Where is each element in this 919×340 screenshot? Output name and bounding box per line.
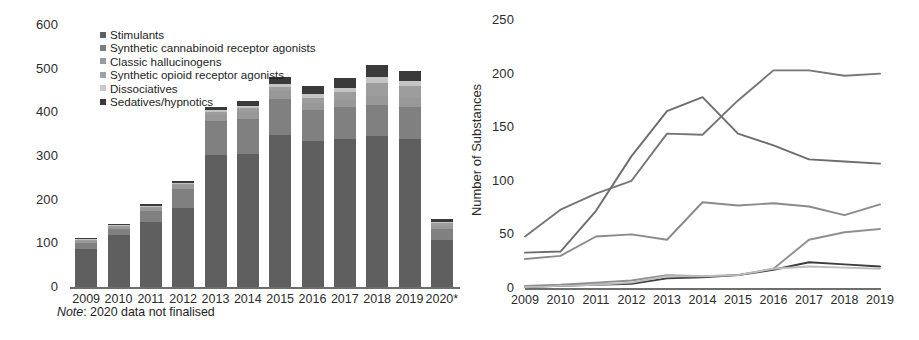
bar-segment — [75, 249, 97, 287]
bar-column[interactable] — [302, 86, 324, 287]
line-plot-area — [525, 20, 880, 288]
bar-segment — [366, 105, 388, 136]
bar-segment — [237, 119, 259, 154]
bar-column[interactable] — [108, 224, 130, 287]
bar-segment — [172, 208, 194, 287]
bar-column[interactable] — [399, 71, 421, 287]
bar-segment — [399, 139, 421, 287]
bar-segment — [334, 139, 356, 287]
bar-segment — [399, 71, 421, 81]
legend-label: Stimulants — [110, 28, 164, 41]
legend-label: Classic hallucinogens — [110, 55, 222, 68]
bar-x-tick: 2020* — [420, 292, 464, 306]
legend-item[interactable]: Synthetic opioid receptor agonists — [100, 68, 316, 81]
stacked-bar-chart: 6005004003002001000 20092010201120122013… — [0, 0, 470, 340]
bar-segment — [237, 154, 259, 287]
bar-segment — [108, 235, 130, 287]
legend-swatch-icon — [100, 72, 106, 78]
legend-swatch-icon — [100, 58, 106, 64]
line-y-axis-title: Number of Substances — [469, 84, 484, 216]
bar-segment — [399, 98, 421, 106]
bar-segment — [366, 96, 388, 105]
bar-segment — [237, 112, 259, 119]
bar-column[interactable] — [205, 107, 227, 287]
bar-segment — [366, 65, 388, 78]
legend-label: Synthetic cannabinoid receptor agonists — [110, 41, 316, 54]
bar-y-tick: 0 — [20, 279, 58, 294]
line-series — [525, 97, 880, 252]
bar-y-tick: 100 — [20, 235, 58, 250]
legend-swatch-icon — [100, 45, 106, 51]
bar-y-tick: 500 — [20, 61, 58, 76]
bar-segment — [366, 83, 388, 96]
bar-segment — [431, 240, 453, 287]
bar-segment — [334, 100, 356, 107]
bar-segment — [140, 222, 162, 288]
bar-y-tick: 600 — [20, 17, 58, 32]
bar-x-axis-line — [70, 287, 460, 289]
bar-segment — [334, 92, 356, 100]
bar-segment — [334, 78, 356, 88]
bar-segment — [431, 229, 453, 240]
line-series-svg — [525, 20, 880, 288]
line-y-tick: 50 — [478, 226, 514, 241]
line-chart: 250200150100500 Number of Substances 200… — [470, 0, 919, 340]
bar-segment — [269, 135, 291, 287]
bar-segment — [366, 136, 388, 287]
note-prefix: Note — [57, 305, 83, 319]
legend-item[interactable]: Synthetic cannabinoid receptor agonists — [100, 41, 316, 54]
bar-column[interactable] — [366, 65, 388, 287]
bar-y-tick: 300 — [20, 148, 58, 163]
bar-segment — [205, 121, 227, 155]
bar-segment — [205, 155, 227, 287]
bar-y-tick: 400 — [20, 104, 58, 119]
bar-column[interactable] — [172, 181, 194, 287]
legend-label: Sedatives/hypnotics — [110, 95, 213, 108]
note-text: : 2020 data not finalised — [83, 305, 215, 319]
bar-legend: StimulantsSynthetic cannabinoid receptor… — [100, 28, 316, 108]
bar-segment — [302, 141, 324, 287]
line-y-tick: 250 — [478, 12, 514, 27]
bar-segment — [334, 107, 356, 138]
legend-item[interactable]: Dissociatives — [100, 82, 316, 95]
bar-segment — [302, 110, 324, 141]
bar-segment — [399, 86, 421, 98]
two-panel-figure: 6005004003002001000 20092010201120122013… — [0, 0, 919, 340]
bar-column[interactable] — [431, 219, 453, 287]
legend-swatch-icon — [100, 99, 106, 105]
bar-column[interactable] — [334, 78, 356, 287]
bar-segment — [172, 189, 194, 209]
bar-segment — [399, 107, 421, 140]
bar-column[interactable] — [140, 204, 162, 287]
legend-label: Synthetic opioid receptor agonists — [110, 68, 284, 81]
legend-label: Dissociatives — [110, 82, 178, 95]
bar-column[interactable] — [75, 238, 97, 287]
line-x-axis-line — [525, 288, 881, 290]
bar-segment — [140, 211, 162, 221]
legend-item[interactable]: Classic hallucinogens — [100, 55, 316, 68]
bar-column[interactable] — [237, 101, 259, 287]
legend-swatch-icon — [100, 85, 106, 91]
chart-note: Note: 2020 data not finalised — [57, 305, 215, 319]
legend-item[interactable]: Sedatives/hypnotics — [100, 95, 316, 108]
bar-y-tick: 200 — [20, 192, 58, 207]
line-y-tick: 200 — [478, 66, 514, 81]
legend-item[interactable]: Stimulants — [100, 28, 316, 41]
legend-swatch-icon — [100, 32, 106, 38]
line-x-tick: 2019 — [859, 293, 901, 307]
